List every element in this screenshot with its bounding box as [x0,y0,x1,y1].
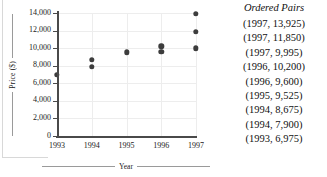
y-axis-tick-labels: 02,0004,0006,0008,00010,00012,00014,000 [0,0,51,177]
ordered-pair-item: (1997, 13,925) [224,17,324,31]
y-axis-tick [53,31,57,32]
ordered-pair-item: (1996, 10,200) [224,60,324,74]
data-point [159,49,164,54]
y-axis-line [57,11,59,137]
y-axis-tick-label: 2,000 [33,113,51,122]
ordered-pair-item: (1997, 11,850) [224,31,324,45]
ordered-pair-item: (1994, 8,675) [224,103,324,117]
x-axis-tick-label: 1995 [110,141,144,150]
ordered-pair-item: (1994, 7,900) [224,118,324,132]
gridline-vertical [161,13,162,136]
y-axis-tick [53,13,57,14]
x-axis-tick-label: 1994 [75,141,109,150]
y-axis-tick-label: 8,000 [33,60,51,69]
y-axis-tick [53,101,57,102]
data-point [89,57,94,62]
data-point [193,11,198,16]
y-axis-tick-label: 0 [47,131,51,140]
x-axis-tick-label: 1996 [144,141,178,150]
y-axis-tick [53,136,57,137]
x-axis-title-rule-left [42,166,115,167]
y-axis-tick-label: 4,000 [33,95,51,104]
data-point [193,45,198,50]
gridline-vertical [92,13,93,136]
y-axis-tick-label: 14,000 [29,8,51,17]
data-point [124,50,129,55]
x-axis-line [56,136,197,138]
y-axis-tick [53,48,57,49]
x-axis-title: Year [115,162,137,171]
ordered-pair-item: (1993, 6,975) [224,132,324,146]
y-axis-tick [53,66,57,67]
x-axis-tick-label: 1993 [40,141,74,150]
data-point [193,29,198,34]
ordered-pairs-title: Ordered Pairs [224,2,324,13]
y-axis-tick [53,83,57,84]
ordered-pair-item: (1997, 9,995) [224,46,324,60]
y-axis-tick-label: 10,000 [29,43,51,52]
data-point [89,64,94,69]
y-axis-tick-label: 12,000 [29,25,51,34]
x-axis-title-group: Year [42,160,210,172]
x-axis-tick-label: 1997 [179,141,213,150]
scatter-plot-figure: Price ($) Year 02,0004,0006,0008,00010,0… [0,0,327,177]
ordered-pairs-panel: Ordered Pairs (1997, 13,925)(1997, 11,85… [224,2,324,147]
ordered-pair-item: (1995, 9,525) [224,89,324,103]
gridline-vertical [127,13,128,136]
y-axis-tick [53,118,57,119]
ordered-pairs-list: (1997, 13,925)(1997, 11,850)(1997, 9,995… [224,17,324,147]
x-axis-title-rule-right [137,166,210,167]
plot-area [57,13,196,136]
y-axis-tick-label: 6,000 [33,78,51,87]
ordered-pair-item: (1996, 9,600) [224,75,324,89]
